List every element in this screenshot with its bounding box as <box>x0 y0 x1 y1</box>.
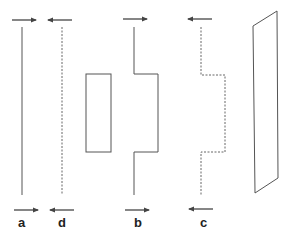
parallelogram-shape <box>253 11 278 193</box>
stepped-line-b <box>134 27 158 195</box>
stepped-line-c <box>201 27 225 195</box>
label-b: b <box>134 215 142 230</box>
element-a: a <box>12 20 38 230</box>
element-d: d <box>48 20 74 230</box>
element-c: c <box>188 19 225 230</box>
element-b: b <box>123 19 158 230</box>
diagram-canvas: a d b c <box>0 0 291 236</box>
label-a: a <box>18 215 26 230</box>
label-d: d <box>58 215 66 230</box>
label-c: c <box>200 215 207 230</box>
rectangle-shape <box>86 74 111 152</box>
